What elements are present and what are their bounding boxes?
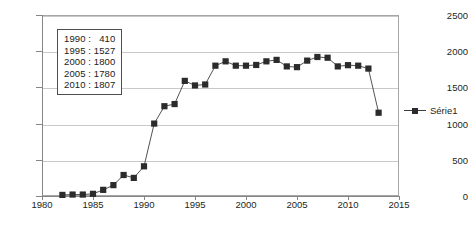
y-axis-tick-label: 1000 — [434, 118, 468, 129]
y-axis-tick-mark — [36, 15, 42, 16]
x-axis-tick-mark — [297, 196, 298, 200]
annotation-row: 2005 : 1780 — [64, 68, 115, 80]
y-axis-tick-label: 2000 — [434, 46, 468, 57]
gridline — [43, 125, 398, 126]
x-axis-tick-label: 2005 — [286, 199, 307, 210]
x-axis-tick-mark — [93, 196, 94, 200]
x-axis-tick-label: 1980 — [31, 199, 52, 210]
x-axis-tick-label: 1985 — [82, 199, 103, 210]
y-axis-tick-label: 500 — [434, 154, 468, 165]
y-axis-tick-mark — [36, 87, 42, 88]
x-axis-tick-mark — [144, 196, 145, 200]
legend-marker-icon — [404, 106, 426, 115]
y-axis-tick-mark — [36, 160, 42, 161]
x-axis-tick-label: 2015 — [388, 199, 409, 210]
x-axis-tick-label: 1990 — [133, 199, 154, 210]
y-axis-line — [42, 15, 43, 196]
annotation-row: 1990 : 410 — [64, 33, 115, 45]
legend: Série1 — [404, 105, 457, 116]
legend-label: Série1 — [430, 105, 457, 116]
x-axis-tick-mark — [42, 196, 43, 200]
y-axis-tick-mark — [36, 51, 42, 52]
annotation-box: 1990 : 4101995 : 15272000 : 18002005 : 1… — [57, 29, 122, 95]
y-axis-tick-label: 0 — [434, 191, 468, 202]
x-axis-tick-mark — [348, 196, 349, 200]
y-axis-tick-label: 2500 — [434, 10, 468, 21]
annotation-row: 1995 : 1527 — [64, 45, 115, 57]
x-axis-tick-label: 1995 — [184, 199, 205, 210]
gridline — [43, 161, 398, 162]
x-axis-tick-mark — [246, 196, 247, 200]
x-axis-tick-mark — [399, 196, 400, 200]
y-axis-tick-mark — [36, 124, 42, 125]
y-axis-tick-label: 1500 — [434, 82, 468, 93]
annotation-row: 2010 : 1807 — [64, 79, 115, 91]
x-axis-tick-label: 2000 — [235, 199, 256, 210]
x-axis-line — [42, 196, 399, 197]
x-axis-tick-mark — [195, 196, 196, 200]
x-axis-tick-label: 2010 — [337, 199, 358, 210]
gridline — [43, 16, 398, 17]
annotation-row: 2000 : 1800 — [64, 56, 115, 68]
line-chart: 05001000150020002500 1980198519901995200… — [0, 0, 468, 226]
